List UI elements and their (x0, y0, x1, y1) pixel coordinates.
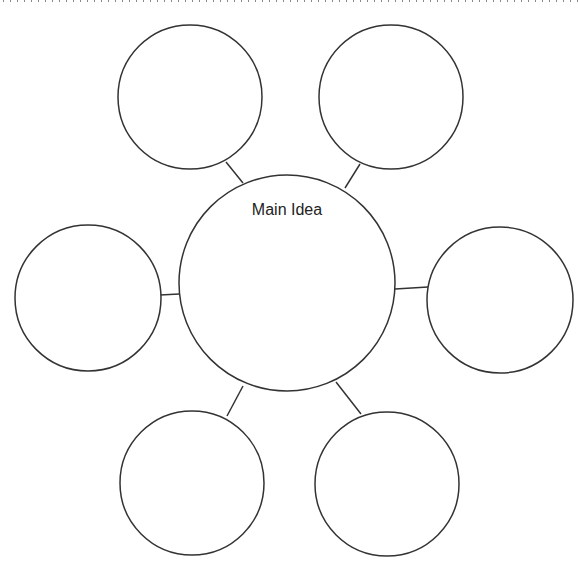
satellite-circle-bottom-left[interactable] (120, 411, 264, 555)
main-idea-label: Main Idea (217, 201, 357, 219)
bubble-map (0, 0, 578, 574)
satellite-circle-bottom-right[interactable] (315, 412, 459, 556)
satellite-circle-left[interactable] (15, 225, 161, 371)
satellite-circle-top-right[interactable] (319, 25, 463, 169)
connector-bottom-right (336, 382, 361, 414)
connector-top-left (226, 162, 243, 183)
connector-top-right (345, 164, 360, 188)
connector-left (160, 294, 179, 295)
satellite-circle-top-left[interactable] (118, 25, 262, 169)
connector-bottom-left (227, 386, 243, 416)
connector-right (395, 287, 428, 289)
satellite-circle-right[interactable] (427, 227, 573, 373)
